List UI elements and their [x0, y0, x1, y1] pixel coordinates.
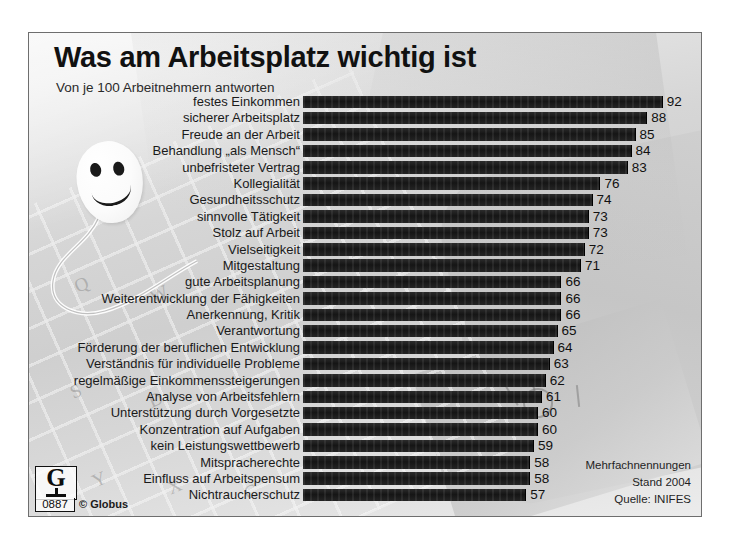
chart-row: unbefristeter Vertrag83	[29, 161, 701, 177]
globus-logo-base	[46, 494, 66, 497]
chart-row: Behandlung „als Mensch“84	[29, 144, 701, 160]
bar-value: 65	[562, 323, 577, 338]
chart-row: Förderung der beruflichen Entwicklung64	[29, 341, 701, 357]
globus-logo: G 0887 © Globus	[35, 466, 143, 512]
bar	[303, 391, 542, 404]
chart-row: Stolz auf Arbeit73	[29, 226, 701, 242]
bar-value: 66	[565, 274, 580, 289]
bar	[303, 227, 589, 240]
bar-label: regelmäßige Einkommenssteigerungen	[74, 374, 300, 388]
bar-label: Anerkennung, Kritik	[187, 308, 300, 322]
chart-row: festes Einkommen92	[29, 95, 701, 111]
bar-label: Konzentration auf Aufgaben	[140, 423, 300, 437]
globus-copyright: © Globus	[79, 498, 128, 510]
bar-value: 66	[565, 307, 580, 322]
bar-label: Gesundheitsschutz	[189, 193, 300, 207]
bar-value: 72	[589, 242, 604, 257]
chart-row: Gesundheitsschutz74	[29, 193, 701, 209]
bar-value: 92	[667, 94, 682, 109]
globus-logo-number: 0887	[35, 498, 75, 512]
globus-logo-box: G	[35, 466, 77, 500]
bar	[303, 309, 561, 322]
bar-label: Mitgestaltung	[223, 259, 300, 273]
bar-value: 85	[640, 127, 655, 142]
bar-label: festes Einkommen	[193, 95, 300, 109]
page-title: Was am Arbeitsplatz wichtig ist	[54, 41, 476, 74]
bar	[303, 407, 538, 420]
bar-value: 63	[554, 356, 569, 371]
page-subtitle: Von je 100 Arbeitnehmern antworten	[56, 80, 274, 95]
bar-label: sicherer Arbeitsplatz	[183, 111, 300, 125]
bar-value: 62	[550, 373, 565, 388]
bar-label: Einfluss auf Arbeitspensum	[143, 472, 300, 486]
bar-value: 66	[565, 291, 580, 306]
bar-label: Stolz auf Arbeit	[213, 226, 300, 240]
bar-label: Analyse von Arbeitsfehlern	[146, 390, 300, 404]
note-multiple-answers: Mehrfachnennungen	[586, 457, 692, 474]
bar-label: Mitspracherechte	[200, 456, 300, 470]
bar-value: 76	[604, 176, 619, 191]
bar	[303, 358, 550, 371]
bar-value: 83	[632, 160, 647, 175]
bar	[303, 259, 581, 272]
chart-notes: Mehrfachnennungen Stand 2004 Quelle: INI…	[586, 457, 692, 508]
chart-row: Weiterentwicklung der Fähigkeiten66	[29, 292, 701, 308]
bar-value: 73	[593, 225, 608, 240]
infographic-root: Q W S D Y X C Was am Arbeitsplatz wichti…	[0, 0, 733, 545]
bar-value: 58	[534, 455, 549, 470]
bar	[303, 194, 593, 207]
bar-chart: festes Einkommen92sicherer Arbeitsplatz8…	[29, 95, 701, 505]
bar-label: Freude an der Arbeit	[181, 128, 300, 142]
chart-row: Konzentration auf Aufgaben60	[29, 423, 701, 439]
bar-label: Nichtraucherschutz	[189, 488, 300, 502]
chart-row: Verständnis für individuelle Probleme63	[29, 357, 701, 373]
bar-value: 59	[538, 438, 553, 453]
chart-row: Mitgestaltung71	[29, 259, 701, 275]
bar	[303, 456, 530, 469]
bar	[303, 423, 538, 436]
bar	[303, 210, 589, 223]
bar-label: unbefristeter Vertrag	[182, 161, 300, 175]
bar-value: 73	[593, 209, 608, 224]
bar-value: 60	[542, 405, 557, 420]
chart-row: Freude an der Arbeit85	[29, 128, 701, 144]
chart-row: Verantwortung65	[29, 324, 701, 340]
bar-value: 74	[597, 192, 612, 207]
bar	[303, 145, 632, 158]
chart-row: Vielseitigkeit72	[29, 243, 701, 259]
bar	[303, 243, 585, 256]
bar-label: sinnvolle Tätigkeit	[197, 210, 300, 224]
bar	[303, 112, 647, 125]
bar-label: Vielseitigkeit	[228, 243, 300, 257]
chart-row: Anerkennung, Kritik66	[29, 308, 701, 324]
bar-label: Verständnis für individuelle Probleme	[86, 357, 300, 371]
bar-label: Unterstützung durch Vorgesetzte	[111, 406, 300, 420]
bar-label: Weiterentwicklung der Fähigkeiten	[102, 292, 300, 306]
bar	[303, 128, 636, 141]
bar-value: 60	[542, 422, 557, 437]
bar-value: 64	[558, 340, 573, 355]
chart-row: Kollegialität76	[29, 177, 701, 193]
bar-label: Kollegialität	[234, 177, 301, 191]
bar-label: Verantwortung	[216, 324, 300, 338]
bar	[303, 325, 558, 338]
bar	[303, 161, 628, 174]
bar-value: 88	[651, 110, 666, 125]
bar-label: Behandlung „als Mensch“	[153, 144, 300, 158]
bar	[303, 489, 526, 502]
chart-row: sinnvolle Tätigkeit73	[29, 210, 701, 226]
bar	[303, 472, 530, 485]
note-survey-year: Stand 2004	[586, 474, 692, 491]
chart-row: kein Leistungswettbewerb59	[29, 439, 701, 455]
bar	[303, 292, 561, 305]
bar	[303, 96, 663, 109]
chart-row: sicherer Arbeitsplatz88	[29, 111, 701, 127]
bar-value: 84	[636, 143, 651, 158]
bar-label: kein Leistungswettbewerb	[150, 439, 300, 453]
bar	[303, 374, 546, 387]
bar	[303, 177, 600, 190]
chart-row: gute Arbeitsplanung66	[29, 275, 701, 291]
bar	[303, 276, 561, 289]
bar-label: gute Arbeitsplanung	[185, 275, 300, 289]
bar-value: 57	[530, 487, 545, 502]
